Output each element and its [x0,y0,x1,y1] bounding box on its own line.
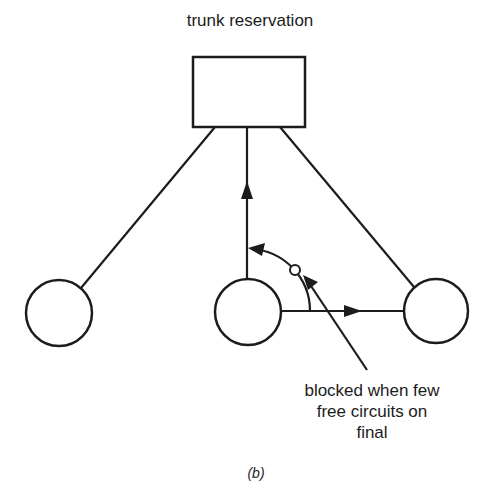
annotation-line-1: blocked when few [304,381,440,400]
trunk-reservation-diagram: trunk reservation blocked when few free … [0,0,501,497]
annotation-line-2: free circuits on [317,402,428,421]
title-label: trunk reservation [187,11,314,30]
annotation-line-3: final [356,423,387,442]
gate-circle [290,265,300,275]
left-link [81,127,215,288]
figure-caption: (b) [247,465,264,481]
annotation-pointer [307,280,367,370]
trunk-reservation-box [193,57,305,127]
right-link [280,127,414,287]
right-arrow-icon [344,305,362,317]
right-node [404,279,468,343]
up-arrow-icon [241,181,253,199]
arc-arrow-icon [248,243,265,256]
middle-node [215,279,281,345]
left-node [26,280,92,346]
